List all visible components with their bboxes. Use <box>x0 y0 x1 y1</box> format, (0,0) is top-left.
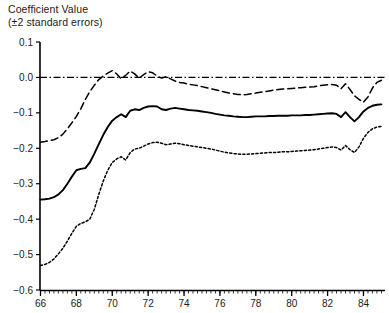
y-tick-label: 0.0 <box>19 72 33 83</box>
data-series-group <box>40 71 381 266</box>
x-tick-label: 72 <box>143 298 155 309</box>
y-tick-label: −0.2 <box>13 143 33 154</box>
y-tick-label: −0.6 <box>13 285 33 296</box>
y-axis: 0.10.0−0.1−0.2−0.3−0.4−0.5−0.6 <box>13 37 40 296</box>
x-tick-label: 74 <box>178 298 190 309</box>
coefficient-chart: Coefficient Value(±2 standard errors) 0.… <box>0 0 389 313</box>
x-axis: 66687072747678808284 <box>35 291 385 309</box>
x-tick-label: 82 <box>322 298 334 309</box>
x-tick-label: 70 <box>107 298 119 309</box>
series-line <box>40 71 381 143</box>
series-line <box>40 104 381 199</box>
x-tick-label: 84 <box>358 298 370 309</box>
plot-area: 0.10.0−0.1−0.2−0.3−0.4−0.5−0.6 666870727… <box>0 0 389 313</box>
y-tick-label: −0.5 <box>13 249 33 260</box>
x-tick-label: 68 <box>71 298 83 309</box>
x-tick-label: 80 <box>286 298 298 309</box>
x-tick-label: 66 <box>35 298 47 309</box>
y-tick-label: −0.1 <box>13 107 33 118</box>
y-tick-label: 0.1 <box>19 37 33 48</box>
x-tick-label: 76 <box>214 298 226 309</box>
x-tick-label: 78 <box>250 298 262 309</box>
y-tick-label: −0.3 <box>13 178 33 189</box>
series-line <box>40 126 381 265</box>
y-tick-label: −0.4 <box>13 214 33 225</box>
